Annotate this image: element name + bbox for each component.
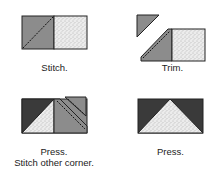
step-press-label: Press. <box>4 146 104 157</box>
step-press-final-label: Press. <box>138 146 203 157</box>
step-trim-illustration <box>137 15 205 61</box>
trimmed-triangle <box>137 15 159 37</box>
gray-square <box>22 16 54 49</box>
step-press-stitch-illustration <box>22 97 87 133</box>
stippled-rectangle <box>172 29 205 61</box>
gray-triangle-remaining <box>141 29 172 61</box>
step-stitch-label: Stitch. <box>22 62 87 73</box>
step-press-illustration <box>138 99 203 133</box>
step-stitch-illustration <box>22 16 87 49</box>
step-trim-label: Trim. <box>140 62 205 73</box>
stippled-rectangle <box>54 16 87 49</box>
quilting-steps-diagram <box>0 0 216 170</box>
step-stitch-other-corner-label: Stitch other corner. <box>4 157 104 168</box>
